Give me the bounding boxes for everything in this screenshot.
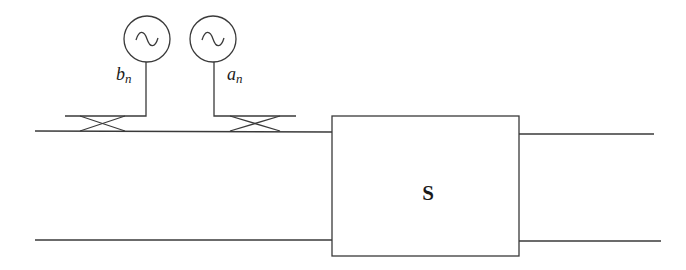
source-a-label: an (227, 64, 243, 86)
coupler-left-arm (65, 62, 146, 116)
source-b (124, 16, 170, 62)
diagram-canvas: S bn an (0, 0, 686, 270)
coupler-left (65, 62, 146, 131)
sine-wave-icon (136, 32, 158, 45)
source-a (190, 16, 236, 62)
sine-wave-icon (202, 32, 224, 45)
left-upper-line (35, 131, 332, 132)
source-b-label: bn (116, 64, 132, 86)
block-label: S (422, 181, 434, 205)
